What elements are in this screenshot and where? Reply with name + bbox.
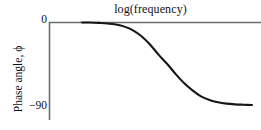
phase-angle-curve (82, 22, 252, 105)
plot-area (0, 0, 261, 130)
phase-bode-plot-figure: log(frequency) Phase angle, ϕ 0 −90 (0, 0, 261, 130)
